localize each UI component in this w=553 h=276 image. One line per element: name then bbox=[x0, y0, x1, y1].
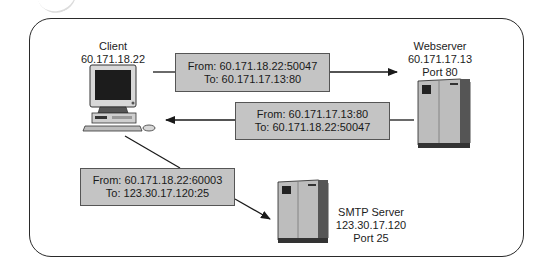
webserver-name: Webserver bbox=[400, 40, 480, 53]
smtp-ip: 123.30.17.120 bbox=[330, 219, 412, 232]
packet-to: To: 60.171.18.22:50047 bbox=[236, 121, 389, 134]
packet-webserver-to-client: From: 60.171.17.13:80 To: 60.171.18.22:5… bbox=[235, 102, 390, 140]
packet-client-to-webserver: From: 60.171.18.22:50047 To: 60.171.17.1… bbox=[175, 53, 330, 92]
webserver-ip: 60.171.17.13 bbox=[400, 53, 480, 66]
packet-to: To: 123.30.17.120:25 bbox=[81, 187, 234, 200]
webserver-label: Webserver 60.171.17.13 Port 80 bbox=[400, 40, 480, 79]
client-name: Client bbox=[73, 40, 153, 53]
packet-client-to-smtp: From: 60.171.18.22:60003 To: 123.30.17.1… bbox=[80, 168, 235, 206]
desktop-computer-icon bbox=[82, 64, 158, 136]
packet-from: From: 60.171.18.22:60003 bbox=[81, 174, 234, 187]
packet-from: From: 60.171.18.22:50047 bbox=[176, 60, 329, 73]
smtp-name: SMTP Server bbox=[330, 206, 412, 219]
smtp-port: Port 25 bbox=[330, 232, 412, 245]
smtp-server-icon bbox=[276, 178, 330, 244]
packet-to: To: 60.171.17.13:80 bbox=[176, 73, 329, 86]
webserver-icon bbox=[416, 77, 472, 149]
packet-from: From: 60.171.17.13:80 bbox=[236, 108, 389, 121]
client-label: Client 60.171.18.22 bbox=[73, 40, 153, 66]
smtp-label: SMTP Server 123.30.17.120 Port 25 bbox=[330, 206, 412, 245]
